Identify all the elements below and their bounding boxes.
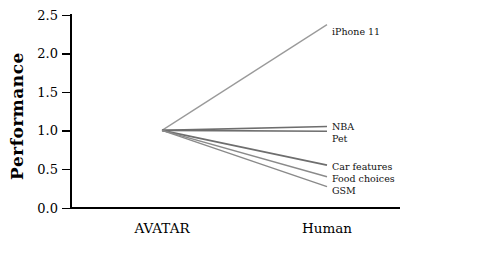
series-line-food-choices [162,130,327,176]
performance-line-chart: Performance 0.0 0.5 1.0 1.5 2.0 2.5 [0,0,483,253]
series-label-nba: NBA [332,121,354,132]
series-label-iphone-11: iPhone 11 [332,26,380,37]
series-label-gsm: GSM [332,185,356,196]
y-tick-label-1: 0.5 [37,162,58,177]
y-tick-label-3: 1.5 [37,84,58,99]
y-axis-title: Performance [4,0,30,253]
plot-area: 0.0 0.5 1.0 1.5 2.0 2.5 AVATAR Human [70,14,400,208]
series-line-gsm [162,130,327,186]
x-tick-label-human: Human [302,220,352,236]
series-label-food-choices: Food choices [332,173,395,184]
series-line-iphone-11 [162,25,327,131]
y-tick-label-2: 1.0 [37,123,58,138]
series-line-pet [162,130,327,131]
y-axis-title-label: Performance [7,52,27,180]
x-tick-label-avatar: AVATAR [134,220,189,236]
series-label-pet: Pet [332,133,347,144]
y-tick-label-5: 2.5 [37,7,58,22]
y-tick-label-0: 0.0 [37,200,58,215]
series-line-car-features [162,130,327,165]
y-tick-label-4: 2.0 [37,46,58,61]
series-label-car-features: Car features [332,161,392,172]
